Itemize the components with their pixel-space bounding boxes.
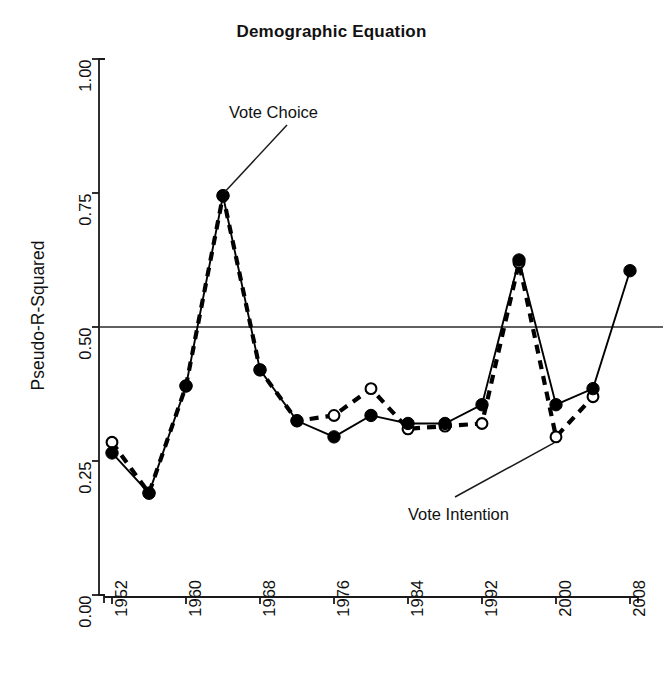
marker-vote-choice: [365, 409, 377, 421]
y-axis-title: Pseudo-R-Squared: [28, 186, 49, 446]
marker-vote-intention: [551, 431, 562, 442]
leader-line-vote-intention: [455, 443, 554, 497]
marker-vote-choice: [439, 417, 451, 429]
x-tick-label-2008: 2008: [630, 580, 649, 640]
marker-vote-choice: [587, 382, 599, 394]
x-tick-label-1976: 1976: [334, 580, 353, 640]
marker-vote-choice: [550, 399, 562, 411]
x-tick-label-1952: 1952: [112, 580, 131, 640]
marker-vote-choice: [106, 447, 118, 459]
series-line-vote-choice: [112, 196, 630, 493]
y-tick-label-0.50: 0.50: [76, 328, 95, 388]
marker-vote-choice: [328, 431, 340, 443]
marker-vote-choice: [402, 417, 414, 429]
marker-vote-intention: [477, 418, 488, 429]
annotation-vote-choice: Vote Choice: [229, 103, 318, 122]
marker-vote-intention: [329, 410, 340, 421]
marker-vote-choice: [143, 487, 155, 499]
marker-vote-choice: [624, 265, 636, 277]
y-tick-label-0.00: 0.00: [76, 596, 95, 656]
chart-title: Demographic Equation: [0, 22, 663, 42]
marker-vote-choice: [217, 189, 229, 201]
x-tick-label-1984: 1984: [408, 580, 427, 640]
x-tick-label-1968: 1968: [260, 580, 279, 640]
x-tick-label-1992: 1992: [482, 580, 501, 640]
chart-figure: Demographic Equation Pseudo-R-Squared 0.…: [0, 0, 663, 689]
marker-vote-choice: [254, 364, 266, 376]
marker-vote-choice: [513, 254, 525, 266]
annotation-vote-intention: Vote Intention: [408, 505, 509, 524]
marker-vote-intention: [107, 437, 118, 448]
marker-vote-choice: [291, 415, 303, 427]
y-tick-label-0.25: 0.25: [76, 462, 95, 522]
marker-vote-choice: [180, 380, 192, 392]
marker-vote-choice: [476, 399, 488, 411]
series-line-vote-intention: [112, 196, 593, 493]
x-tick-label-1960: 1960: [186, 580, 205, 640]
y-tick-label-1.00: 1.00: [76, 60, 95, 120]
marker-vote-intention: [366, 383, 377, 394]
x-tick-label-2000: 2000: [556, 580, 575, 640]
y-tick-label-0.75: 0.75: [76, 194, 95, 254]
leader-line-vote-choice: [225, 125, 287, 192]
